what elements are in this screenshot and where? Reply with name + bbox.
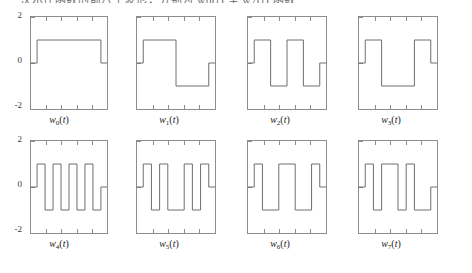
top-caption: 沃尔什函数的前八个波形，分别为 w0(t) 至 w7(t) 函数	[20, 0, 460, 3]
axes-frame	[247, 140, 327, 234]
waveform-path	[31, 164, 107, 210]
y-tick-label-2: 2	[6, 11, 22, 20]
subplot-w4: 20-2w4(t)	[0, 136, 118, 262]
y-tick-label-0: 0	[6, 56, 22, 65]
waveform-path	[31, 40, 107, 63]
waveform-w4	[31, 141, 107, 233]
waveform-path	[137, 164, 215, 210]
subplot-xlabel-w2: w2(t)	[221, 114, 339, 127]
subplot-xlabel-w0: w0(t)	[0, 114, 118, 127]
subplot-xlabel-w5: w5(t)	[110, 238, 228, 251]
plot-row-top: 20-2w0(t)w1(t)w2(t)w3(t)	[0, 12, 472, 138]
waveform-w5	[137, 141, 215, 233]
subplot-w6: w6(t)	[221, 136, 339, 262]
waveform-path	[248, 40, 326, 86]
waveform-w7	[359, 141, 437, 233]
waveform-w0	[31, 17, 107, 109]
axes-frame	[358, 16, 438, 110]
subplot-w7: w7(t)	[332, 136, 450, 262]
waveform-w2	[248, 17, 326, 109]
axes-frame	[30, 16, 108, 110]
waveform-path	[137, 40, 215, 86]
subplot-w2: w2(t)	[221, 12, 339, 138]
waveform-w1	[137, 17, 215, 109]
axes-frame	[136, 16, 216, 110]
walsh-function-plot-grid: 20-2w0(t)w1(t)w2(t)w3(t) 20-2w4(t)w5(t)w…	[0, 12, 472, 270]
axes-frame	[30, 140, 108, 234]
subplot-xlabel-w1: w1(t)	[110, 114, 228, 127]
subplot-w5: w5(t)	[110, 136, 228, 262]
subplot-w1: w1(t)	[110, 12, 228, 138]
subplot-w0: 20-2w0(t)	[0, 12, 118, 138]
axes-frame	[247, 16, 327, 110]
subplot-xlabel-w6: w6(t)	[221, 238, 339, 251]
plot-row-bottom: 20-2w4(t)w5(t)w6(t)w7(t)	[0, 136, 472, 262]
y-tick-label-0: 0	[6, 180, 22, 189]
waveform-w6	[248, 141, 326, 233]
subplot-xlabel-w3: w3(t)	[332, 114, 450, 127]
subplot-xlabel-w7: w7(t)	[332, 238, 450, 251]
subplot-w3: w3(t)	[332, 12, 450, 138]
axes-frame	[136, 140, 216, 234]
subplot-xlabel-w4: w4(t)	[0, 238, 118, 251]
waveform-path	[359, 164, 437, 210]
axes-frame	[358, 140, 438, 234]
waveform-path	[359, 40, 437, 86]
y-tick-label-neg2: -2	[6, 101, 22, 110]
y-tick-label-2: 2	[6, 135, 22, 144]
waveform-path	[248, 164, 326, 210]
y-tick-label-neg2: -2	[6, 225, 22, 234]
waveform-w3	[359, 17, 437, 109]
